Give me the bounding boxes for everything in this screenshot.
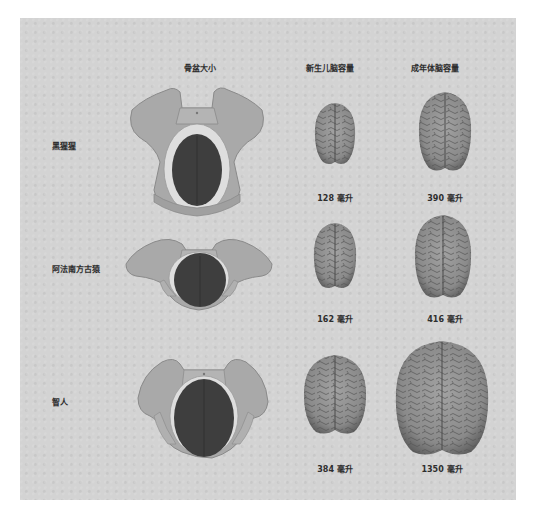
header-pelvis-size: 骨盆大小: [160, 62, 240, 73]
species-label-homo-sapiens: 智人: [52, 396, 68, 407]
header-adult-brain: 成年体脑容量: [395, 62, 475, 73]
species-label-chimpanzee: 黑猩猩: [52, 140, 76, 151]
brain-newborn-chimpanzee: [313, 102, 357, 166]
volume-adult-chimpanzee: 390 毫升: [405, 192, 485, 203]
volume-adult-australopithecus: 416 毫升: [405, 313, 485, 324]
pelvis-homo-sapiens: [134, 352, 274, 462]
brain-adult-homo-sapiens: [393, 340, 491, 458]
pelvis-chimpanzee: [122, 82, 272, 217]
volume-adult-homo-sapiens: 1350 毫升: [402, 463, 482, 474]
brain-adult-chimpanzee: [417, 91, 473, 173]
brain-newborn-homo-sapiens: [302, 354, 368, 436]
volume-newborn-homo-sapiens: 384 毫升: [295, 463, 375, 474]
species-label-australopithecus: 阿法南方古猿: [52, 263, 100, 274]
volume-newborn-australopithecus: 162 毫升: [295, 313, 375, 324]
header-newborn-brain: 新生儿脑容量: [290, 62, 370, 73]
pelvis-australopithecus: [124, 230, 274, 315]
volume-newborn-chimpanzee: 128 毫升: [295, 192, 375, 203]
brain-newborn-australopithecus: [312, 222, 358, 290]
brain-adult-australopithecus: [413, 214, 473, 300]
